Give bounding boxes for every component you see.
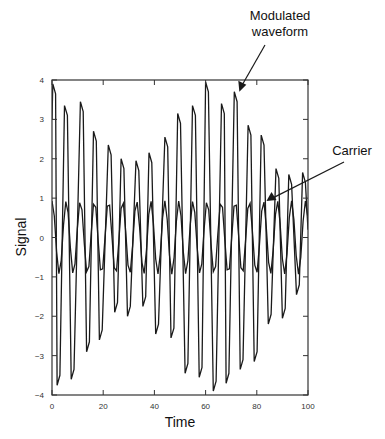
x-tick-label: 20 bbox=[99, 402, 108, 411]
annotations: ModulatedwaveformCarrier bbox=[238, 8, 372, 201]
y-tick-label: −4 bbox=[35, 391, 45, 400]
y-axis-label: Signal bbox=[13, 218, 29, 257]
y-tick-label: −1 bbox=[35, 273, 45, 282]
annotation-carrier: Carrier bbox=[332, 143, 372, 158]
y-tick-label: 1 bbox=[40, 194, 45, 203]
x-axis-label: Time bbox=[165, 414, 196, 430]
y-tick-label: 2 bbox=[40, 155, 45, 164]
x-tick-label: 40 bbox=[150, 402, 159, 411]
arrowhead-icon bbox=[238, 81, 246, 92]
x-tick-label: 80 bbox=[252, 402, 261, 411]
x-tick-label: 60 bbox=[201, 402, 210, 411]
plot-lines bbox=[52, 82, 308, 391]
y-tick-label: 0 bbox=[40, 234, 45, 243]
y-tick-label: −2 bbox=[35, 312, 45, 321]
arrow-modulated bbox=[242, 45, 265, 85]
y-tick-label: −3 bbox=[35, 352, 45, 361]
y-tick-label: 3 bbox=[40, 115, 45, 124]
x-tick-label: 0 bbox=[50, 402, 55, 411]
x-tick-label: 100 bbox=[301, 402, 315, 411]
annotation-modulated-waveform: Modulatedwaveform bbox=[250, 8, 311, 39]
signal-chart: 02040608010043210−1−2−3−4 Modulatedwavef… bbox=[0, 0, 385, 439]
y-tick-label: 4 bbox=[40, 76, 45, 85]
